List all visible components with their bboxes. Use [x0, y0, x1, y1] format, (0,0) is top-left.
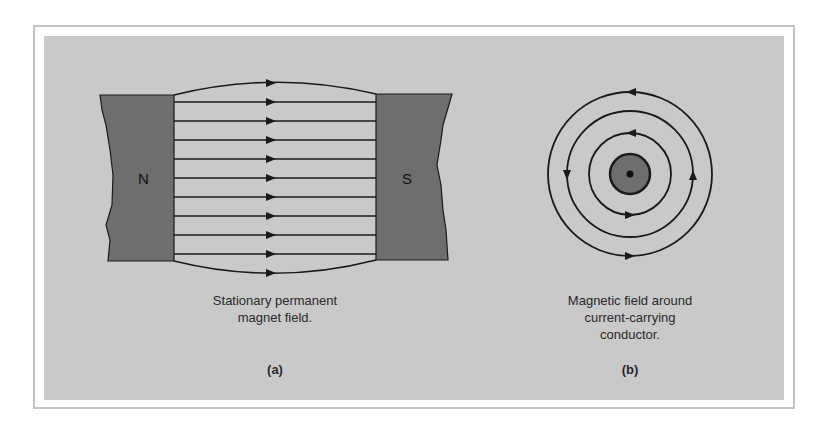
north-magnet: [100, 95, 174, 261]
caption-b-line3: conductor.: [530, 326, 730, 343]
arrow-heads: [266, 79, 276, 277]
caption-b: Magnetic field around current-carrying c…: [530, 292, 730, 343]
south-label: S: [402, 170, 412, 187]
caption-b-line1: Magnetic field around: [530, 292, 730, 309]
sublabel-a: (a): [235, 362, 315, 377]
caption-a: Stationary permanent magnet field.: [175, 292, 375, 326]
caption-a-line2: magnet field.: [175, 309, 375, 326]
current-dot: [627, 171, 634, 178]
north-label: N: [138, 170, 149, 187]
caption-b-line2: current-carrying: [530, 309, 730, 326]
magnetic-field-diagram: [0, 0, 826, 433]
caption-a-line1: Stationary permanent: [175, 292, 375, 309]
south-magnet: [376, 94, 452, 260]
sublabel-b: (b): [590, 362, 670, 377]
